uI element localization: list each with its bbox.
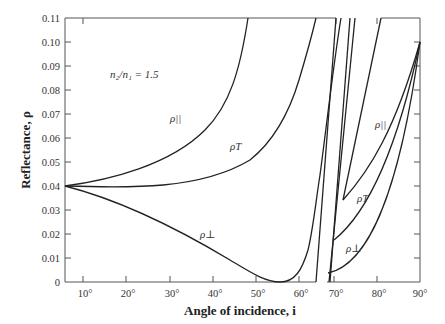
curve-rho-parallel [65, 18, 248, 186]
svg-text:20°: 20° [121, 288, 136, 299]
curve-rho-T-right [334, 42, 420, 240]
svg-text:30°: 30° [165, 288, 180, 299]
svg-text:40°: 40° [208, 288, 223, 299]
svg-text:0.11: 0.11 [42, 13, 60, 24]
x-tick-labels: 10° 20° 30° 40° 50° 60° 70° 80° 90° [78, 288, 428, 299]
svg-text:60°: 60° [294, 288, 309, 299]
label-rho-perp-left: ρ⊥ [199, 228, 216, 240]
x-axis-title: Angle of incidence, i [184, 303, 296, 318]
svg-text:80°: 80° [372, 288, 387, 299]
curves-right [328, 18, 420, 282]
svg-text:0.09: 0.09 [42, 61, 60, 72]
curves-left [65, 18, 350, 282]
label-rho-parallel-left: ρ|| [169, 112, 181, 124]
svg-text:0.05: 0.05 [42, 157, 60, 168]
svg-text:0: 0 [55, 277, 60, 288]
svg-text:10°: 10° [78, 288, 93, 299]
curve-rho-T [65, 18, 316, 187]
curve-rho-perp [65, 18, 341, 282]
svg-text:0.06: 0.06 [42, 133, 60, 144]
svg-text:0.04: 0.04 [42, 181, 61, 192]
svg-text:0.07: 0.07 [42, 109, 60, 120]
svg-text:0.02: 0.02 [42, 229, 60, 240]
svg-text:0.10: 0.10 [42, 37, 60, 48]
label-rho-perp-right: ρ⊥ [345, 242, 362, 254]
svg-text:90°: 90° [413, 288, 428, 299]
index-ratio-annotation: n₂/n₁ = 1.5 [110, 68, 159, 80]
y-tick-labels: 0 0.01 0.02 0.03 0.04 0.05 0.06 0.07 0.0… [42, 13, 61, 288]
label-rho-T-left: ρT [229, 140, 242, 152]
svg-text:0.03: 0.03 [42, 205, 60, 216]
svg-text:0.01: 0.01 [42, 253, 60, 264]
svg-text:70°: 70° [329, 288, 344, 299]
svg-text:50°: 50° [251, 288, 266, 299]
label-rho-T-right: ρT [356, 192, 369, 204]
svg-text:0.08: 0.08 [42, 85, 60, 96]
axes-frame [65, 18, 420, 282]
reflectance-chart: 0 0.01 0.02 0.03 0.04 0.05 0.06 0.07 0.0… [0, 0, 445, 324]
y-axis-title: Reflectance, ρ [18, 111, 33, 189]
label-rho-parallel-right: ρ|| [374, 118, 386, 130]
